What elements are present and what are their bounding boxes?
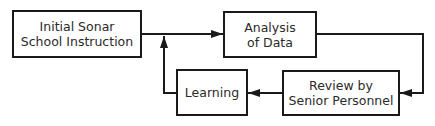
arrow-learning-feedback bbox=[164, 36, 176, 93]
node-label-line: Learning bbox=[185, 85, 239, 100]
feedback-loop-diagram: Initial Sonar School Instruction Analysi… bbox=[0, 0, 435, 126]
node-label-line: of Data bbox=[244, 35, 296, 50]
node-review-by-senior-personnel: Review by Senior Personnel bbox=[282, 70, 400, 116]
node-label-line: Analysis bbox=[244, 20, 296, 35]
node-learning: Learning bbox=[176, 69, 248, 116]
node-label-line: Review by bbox=[289, 78, 394, 93]
node-analysis-of-data: Analysis of Data bbox=[223, 11, 317, 58]
node-initial-sonar-school-instruction: Initial Sonar School Instruction bbox=[12, 10, 142, 58]
node-label-line: Initial Sonar bbox=[21, 19, 133, 34]
node-label-line: School Instruction bbox=[21, 34, 133, 49]
node-label-line: Senior Personnel bbox=[289, 93, 394, 108]
